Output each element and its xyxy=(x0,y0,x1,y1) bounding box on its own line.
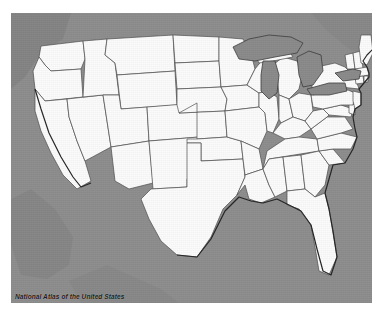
state-south-dakota xyxy=(175,61,221,89)
lake-michigan xyxy=(261,61,279,99)
us-states-map-graphic: .land { fill:#fbfbfb; stroke:#4d4d4d; st… xyxy=(11,13,372,303)
map-source-caption: National Atlas of the United States xyxy=(15,293,124,300)
state-nebraska xyxy=(177,87,227,113)
map-screenshot: .land { fill:#fbfbfb; stroke:#4d4d4d; st… xyxy=(0,0,383,316)
state-arizona xyxy=(111,141,153,189)
state-wyoming xyxy=(117,71,177,109)
map-image[interactable]: .land { fill:#fbfbfb; stroke:#4d4d4d; st… xyxy=(11,13,372,303)
state-north-dakota xyxy=(173,35,219,63)
